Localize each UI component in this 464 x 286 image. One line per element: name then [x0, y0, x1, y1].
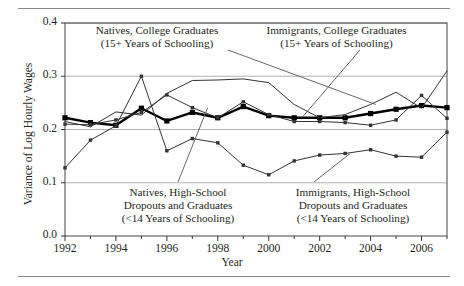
- series-marker-3: [369, 148, 372, 151]
- annotation-natives-highschool-line2: Dropouts and Graduates: [98, 199, 258, 212]
- series-marker-3: [165, 149, 168, 152]
- data-series-layer: [62, 71, 449, 177]
- series-marker-2: [165, 93, 168, 96]
- series-marker-3: [114, 124, 117, 127]
- y-axis-label: Variance of Log Hourly Wages: [22, 44, 34, 224]
- x-tick-label-1996: 1996: [145, 242, 189, 256]
- series-marker-0: [444, 105, 449, 110]
- y-tick-label-0: 0.0: [27, 228, 57, 242]
- annotation-immigrants-college-line2: (15+ Years of Schooling): [244, 37, 429, 50]
- annotation-natives-highschool: Natives, High-School Dropouts and Gradua…: [98, 186, 258, 226]
- leader-immigrants-college: [302, 50, 360, 118]
- series-marker-0: [62, 115, 67, 120]
- series-marker-2: [445, 117, 448, 120]
- annotation-immigrants-highschool-line2: Dropouts and Graduates: [268, 199, 438, 212]
- x-tick-label-2002: 2002: [298, 242, 342, 256]
- series-marker-2: [394, 118, 397, 121]
- x-tick-label-1992: 1992: [43, 242, 87, 256]
- series-marker-2: [242, 100, 245, 103]
- series-marker-2: [89, 123, 92, 126]
- series-marker-3: [318, 153, 321, 156]
- series-marker-2: [343, 121, 346, 124]
- figure-container: 0.0 0.1 0.2 0.3 0.4 1992 1994 1996 1998 …: [0, 0, 464, 286]
- series-marker-0: [139, 106, 144, 111]
- annotation-immigrants-college-line1: Immigrants, College Graduates: [244, 24, 429, 37]
- annotation-natives-college-line2: (15+ Years of Schooling): [72, 37, 242, 50]
- leader-immigrants-highschool: [314, 153, 350, 182]
- series-marker-2: [191, 106, 194, 109]
- series-marker-2: [267, 113, 270, 116]
- series-marker-2: [369, 124, 372, 127]
- series-marker-0: [241, 104, 246, 109]
- series-0: [62, 103, 449, 128]
- series-marker-2: [114, 118, 117, 121]
- x-axis-label: Year: [0, 256, 464, 268]
- series-marker-3: [394, 154, 397, 157]
- annotation-immigrants-college: Immigrants, College Graduates (15+ Years…: [244, 24, 429, 50]
- series-marker-0: [292, 115, 297, 120]
- series-marker-2: [318, 120, 321, 123]
- series-marker-0: [190, 110, 195, 115]
- series-marker-3: [89, 138, 92, 141]
- series-marker-0: [164, 118, 169, 123]
- x-tick-label-2000: 2000: [247, 242, 291, 256]
- annotation-natives-college: Natives, College Graduates (15+ Years of…: [72, 24, 242, 50]
- annotation-immigrants-highschool: Immigrants, High-School Dropouts and Gra…: [268, 186, 438, 226]
- series-marker-3: [420, 155, 423, 158]
- x-tick-label-2004: 2004: [349, 242, 393, 256]
- series-marker-3: [343, 152, 346, 155]
- series-marker-3: [445, 130, 448, 133]
- annotation-natives-college-line1: Natives, College Graduates: [72, 24, 242, 37]
- series-marker-2: [420, 94, 423, 97]
- series-marker-2: [140, 111, 143, 114]
- series-3: [63, 75, 448, 177]
- y-tick-label-4: 0.4: [27, 15, 57, 29]
- series-line-3: [65, 76, 447, 175]
- series-marker-3: [242, 163, 245, 166]
- series-marker-2: [216, 116, 219, 119]
- series-marker-3: [140, 75, 143, 78]
- series-marker-3: [216, 141, 219, 144]
- annotation-immigrants-highschool-line1: Immigrants, High-School: [268, 186, 438, 199]
- series-marker-0: [343, 115, 348, 120]
- leader-natives-highschool: [178, 108, 208, 182]
- x-tick-label-1994: 1994: [94, 242, 138, 256]
- series-marker-0: [393, 107, 398, 112]
- series-marker-3: [191, 137, 194, 140]
- annotation-natives-highschool-line3: (<14 Years of Schooling): [98, 212, 258, 225]
- x-tick-label-1998: 1998: [196, 242, 240, 256]
- series-marker-3: [293, 159, 296, 162]
- series-marker-3: [63, 166, 66, 169]
- series-marker-2: [63, 122, 66, 125]
- series-marker-0: [368, 111, 373, 116]
- annotation-natives-highschool-line1: Natives, High-School: [98, 186, 258, 199]
- series-marker-2: [293, 120, 296, 123]
- annotation-immigrants-highschool-line3: (<14 Years of Schooling): [268, 212, 438, 225]
- x-tick-label-2006: 2006: [400, 242, 444, 256]
- series-marker-3: [267, 173, 270, 176]
